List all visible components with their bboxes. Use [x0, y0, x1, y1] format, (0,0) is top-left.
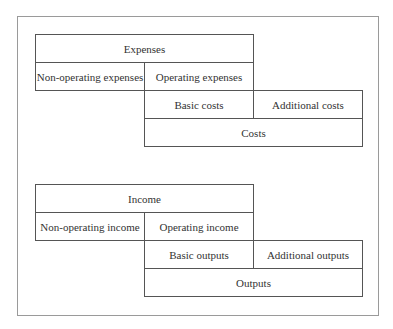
additional-costs-cell: Additional costs	[253, 90, 363, 119]
non-operating-expenses-cell: Non-operating expenses	[35, 62, 145, 91]
basic-outputs-cell: Basic outputs	[144, 240, 254, 269]
non-operating-income-cell: Non-operating income	[35, 212, 145, 241]
operating-expenses-cell: Operating expenses	[144, 62, 254, 91]
basic-costs-cell: Basic costs	[144, 90, 254, 119]
outputs-cell: Outputs	[144, 268, 363, 297]
income-cell: Income	[35, 184, 254, 213]
costs-cell: Costs	[144, 118, 363, 147]
additional-outputs-cell: Additional outputs	[253, 240, 363, 269]
operating-income-cell: Operating income	[144, 212, 254, 241]
expenses-cell: Expenses	[35, 34, 254, 63]
